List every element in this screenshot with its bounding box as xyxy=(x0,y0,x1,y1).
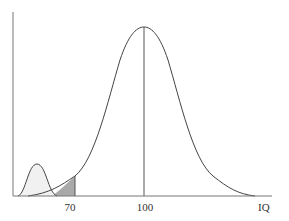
shaded-tail-region xyxy=(52,176,75,196)
tick-label-100: 100 xyxy=(137,201,154,213)
iq-distribution-chart xyxy=(0,0,289,221)
secondary-curve-fill xyxy=(18,164,57,196)
x-axis-label: IQ xyxy=(258,201,270,213)
tick-label-70: 70 xyxy=(65,201,76,213)
main-normal-curve xyxy=(28,27,255,196)
